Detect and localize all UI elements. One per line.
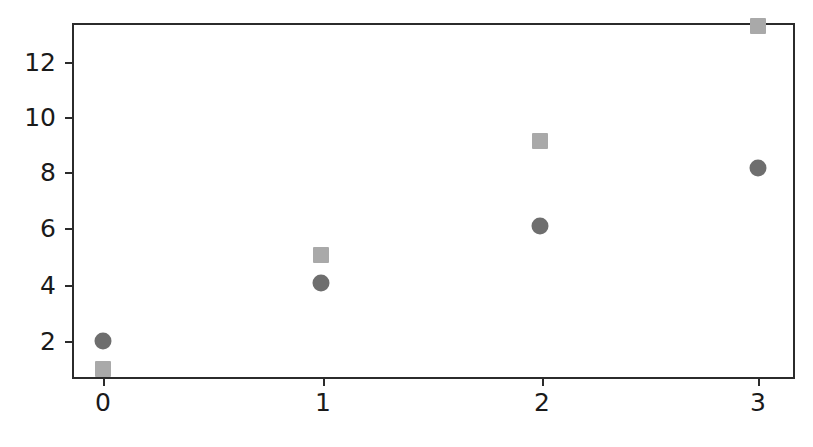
x-tick-label: 0: [73, 390, 133, 415]
x-tick-mark: [542, 379, 544, 386]
y-tick-mark: [65, 172, 72, 174]
plot-area: [72, 23, 795, 379]
x-tick-mark: [758, 379, 760, 386]
y-tick-mark: [65, 341, 72, 343]
y-tick-label: 6: [10, 216, 56, 241]
y-tick-mark: [65, 228, 72, 230]
y-tick-label: 2: [10, 329, 56, 354]
y-tick-mark: [65, 117, 72, 119]
x-tick-label: 1: [293, 390, 353, 415]
data-point-squares-3: [750, 18, 766, 34]
data-point-circles-1: [313, 275, 330, 292]
y-tick-mark: [65, 285, 72, 287]
y-tick-label: 12: [10, 50, 56, 75]
data-point-squares-2: [532, 133, 548, 149]
y-tick-mark: [65, 62, 72, 64]
y-tick-label: 8: [10, 160, 56, 185]
data-point-circles-0: [95, 333, 112, 350]
data-point-squares-0: [95, 361, 111, 377]
scatter-plot-figure: 12 10 8 6 4 2 0 1 2 3: [0, 0, 813, 447]
x-tick-label: 3: [728, 390, 788, 415]
data-point-circles-3: [749, 159, 766, 176]
data-point-circles-2: [531, 217, 548, 234]
x-tick-mark: [323, 379, 325, 386]
x-tick-mark: [103, 379, 105, 386]
y-tick-label: 4: [10, 273, 56, 298]
y-tick-label: 10: [10, 105, 56, 130]
data-point-squares-1: [313, 247, 329, 263]
x-tick-label: 2: [512, 390, 572, 415]
